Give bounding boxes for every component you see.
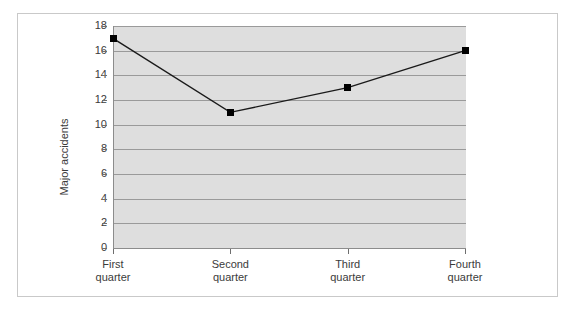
y-axis-tick-mark: [102, 51, 107, 52]
x-axis-tick-label-line2: quarter: [185, 271, 275, 284]
y-axis-tick-mark: [102, 174, 107, 175]
x-axis-tick-mark: [113, 249, 114, 254]
x-axis-tick-label-line2: quarter: [68, 271, 158, 284]
y-axis-title: Major accidents: [58, 81, 70, 97]
x-axis-tick-label: Fourthquarter: [420, 258, 510, 284]
y-axis-tick-mark: [102, 75, 107, 76]
y-axis-tick-mark: [102, 125, 107, 126]
x-axis-tick-label-line1: Second: [185, 258, 275, 271]
data-point-marker: [344, 84, 351, 91]
y-axis-tick-mark: [102, 26, 107, 27]
x-axis-tick-mark: [230, 249, 231, 254]
y-axis-tick-mark: [102, 199, 107, 200]
data-point-marker: [110, 35, 117, 42]
x-axis-tick-label: Thirdquarter: [303, 258, 393, 284]
y-axis-tick-mark: [102, 149, 107, 150]
series-line: [113, 38, 465, 112]
x-axis-tick-mark: [465, 249, 466, 254]
x-axis-tick-label-line2: quarter: [303, 271, 393, 284]
x-axis-tick-label-line1: First: [68, 258, 158, 271]
x-axis-tick-label: Firstquarter: [68, 258, 158, 284]
y-axis-tick-mark: [102, 248, 107, 249]
y-axis-tick-mark: [102, 223, 107, 224]
y-axis-tick-mark: [102, 100, 107, 101]
x-axis-tick-label-line1: Third: [303, 258, 393, 271]
y-axis-title-text: Major accidents: [58, 97, 70, 217]
x-axis-tick-label: Secondquarter: [185, 258, 275, 284]
x-axis-tick-label-line1: Fourth: [420, 258, 510, 271]
x-axis-tick-mark: [348, 249, 349, 254]
x-axis-tick-label-line2: quarter: [420, 271, 510, 284]
chart-figure: Major accidents 024681012141618 Firstqua…: [0, 0, 575, 312]
data-point-marker: [227, 109, 234, 116]
data-point-marker: [462, 47, 469, 54]
series-line-layer: [113, 26, 465, 248]
